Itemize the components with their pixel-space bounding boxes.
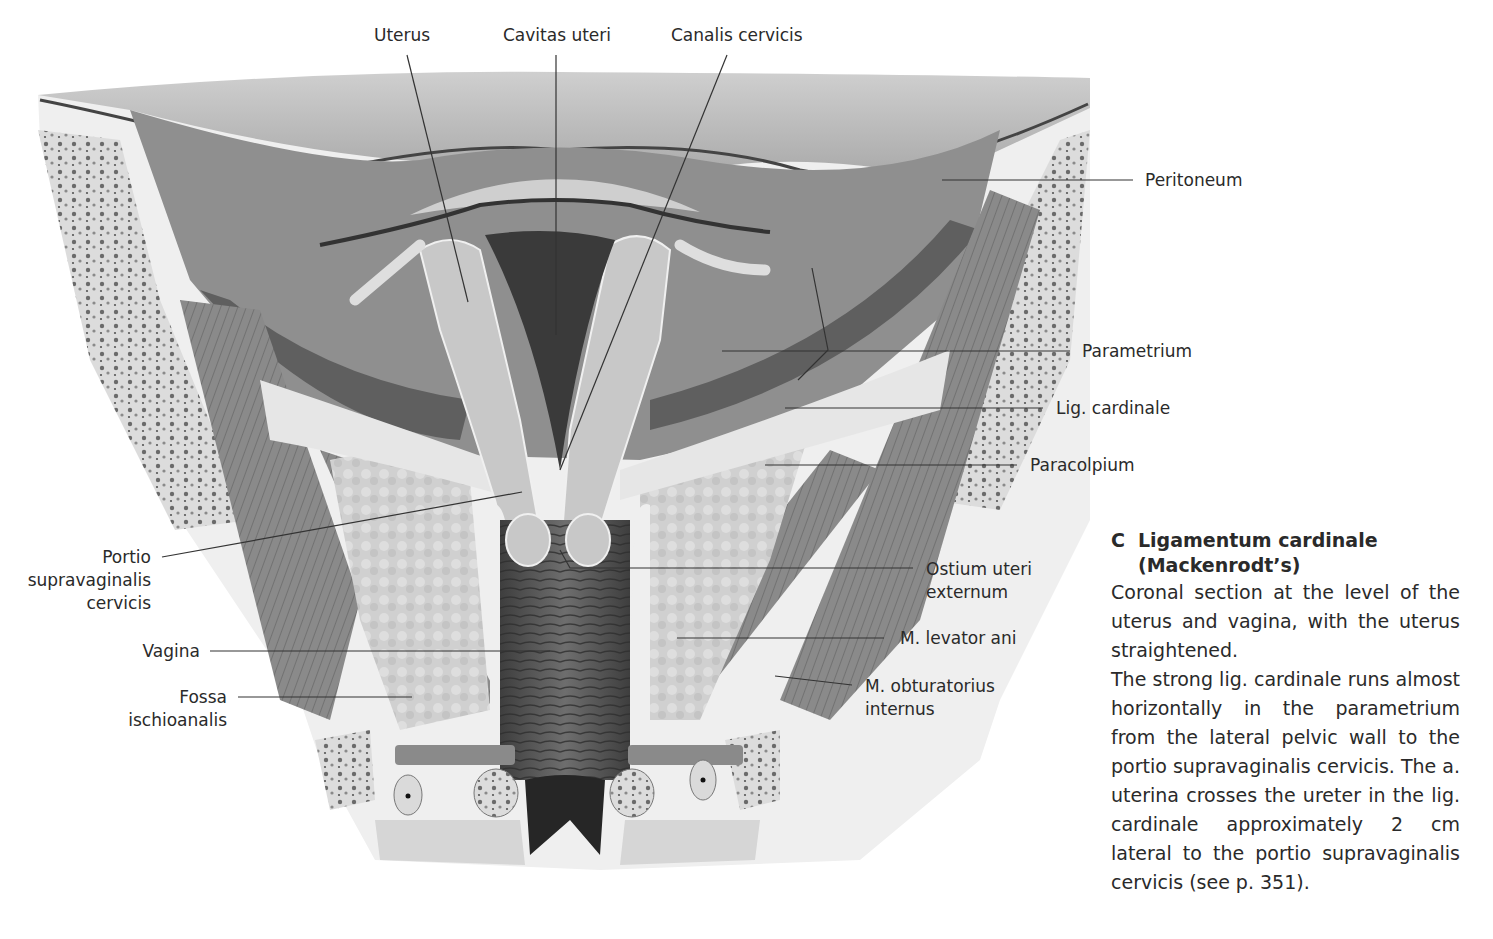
label-parametrium: Parametrium bbox=[1082, 340, 1192, 363]
label-fossa-ischioanalis: Fossa ischioanalis bbox=[128, 686, 227, 732]
label-canalis-cervicis: Canalis cervicis bbox=[671, 24, 803, 47]
figure-caption: CLigamentum cardinale (Mackenrodt’s) Cor… bbox=[1111, 528, 1460, 897]
label-uterus: Uterus bbox=[374, 24, 430, 47]
caption-letter: C bbox=[1111, 528, 1138, 553]
label-m-levator-ani: M. levator ani bbox=[900, 627, 1017, 650]
label-paracolpium: Paracolpium bbox=[1030, 454, 1135, 477]
caption-title: CLigamentum cardinale (Mackenrodt’s) bbox=[1111, 528, 1460, 578]
label-portio-supravaginalis-cervicis: Portio supravaginalis cervicis bbox=[28, 546, 151, 615]
caption-paragraph-1: Coronal section at the level of the uter… bbox=[1111, 578, 1460, 665]
label-vagina: Vagina bbox=[143, 640, 200, 663]
label-lig-cardinale: Lig. cardinale bbox=[1056, 397, 1170, 420]
caption-paragraph-2: The strong lig. cardinale runs almost ho… bbox=[1111, 665, 1460, 897]
label-peritoneum: Peritoneum bbox=[1145, 169, 1242, 192]
label-ostium-uteri-externum: Ostium uteri externum bbox=[926, 558, 1032, 604]
label-cavitas-uteri: Cavitas uteri bbox=[503, 24, 611, 47]
label-m-obturatorius-internus: M. obturatorius internus bbox=[865, 675, 995, 721]
